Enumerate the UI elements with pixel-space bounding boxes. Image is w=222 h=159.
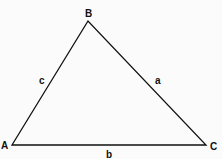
side-label-b: b (106, 149, 112, 159)
side-label-a: a (155, 75, 161, 86)
vertex-label-c: C (210, 141, 217, 152)
side-label-c: c (39, 75, 45, 86)
vertex-label-a: A (1, 140, 8, 151)
triangle-diagram: B A C c a b (0, 0, 222, 159)
vertex-label-b: B (85, 8, 92, 19)
